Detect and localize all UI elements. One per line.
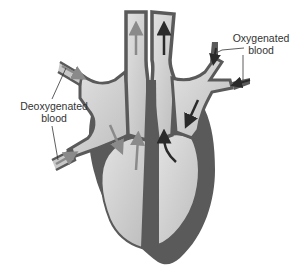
- oxygenated-label-line2: blood: [225, 44, 297, 56]
- oxygenated-label-line1: Oxygenated: [225, 32, 297, 44]
- right-ventricle: [101, 138, 146, 248]
- deoxygenated-label-line2: blood: [14, 112, 94, 124]
- deoxygenated-label-line1: Deoxygenated: [14, 100, 94, 112]
- oxygenated-blood-label: Oxygenated blood: [225, 32, 297, 56]
- deoxygenated-blood-label: Deoxygenated blood: [14, 100, 94, 124]
- leader-deoxy-lower: [52, 126, 58, 160]
- septum: [146, 80, 158, 255]
- superior-vena-cava-left: [58, 62, 82, 85]
